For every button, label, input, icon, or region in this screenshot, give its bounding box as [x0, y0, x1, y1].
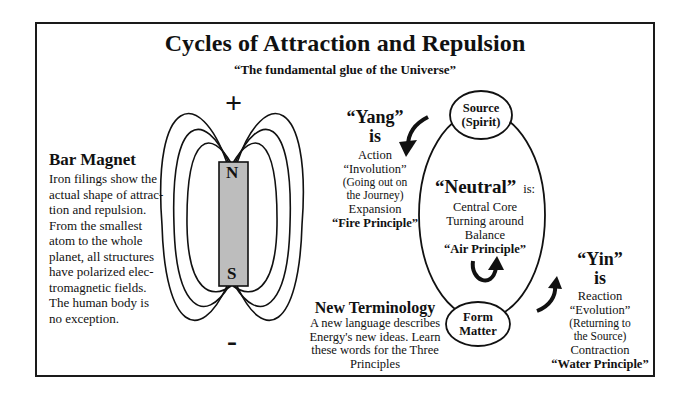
terminology-line: A new language describes — [300, 317, 450, 331]
body-line: actual shape of attrac- — [49, 187, 169, 203]
yang-principle: “Fire Principle” — [320, 216, 430, 230]
body-line: The human body is — [49, 295, 169, 311]
yang-line: the Journey) — [330, 189, 420, 202]
bar-magnet-heading: Bar Magnet — [49, 150, 169, 170]
matter-label: Matter — [447, 324, 509, 338]
body-line: tion and repulsion. — [49, 202, 169, 218]
source-label: Source — [450, 101, 512, 115]
body-line: From the smallest — [49, 218, 169, 234]
neutral-principle: “Air Principle” — [425, 242, 545, 256]
yin-heading: “Yin” — [555, 250, 645, 269]
south-pole-label: S — [227, 264, 236, 284]
body-line: Iron filings show the — [49, 171, 169, 187]
yang-line: “Involution” — [330, 162, 420, 176]
yin-principle: “Water Principle” — [541, 357, 659, 371]
form-label: Form — [447, 310, 509, 324]
north-pole-label: N — [226, 163, 238, 183]
yin-line: the Source) — [555, 330, 645, 343]
yang-line: Action — [330, 148, 420, 162]
terminology-line: these words for the Three — [300, 344, 450, 358]
bar-magnet-body: Iron filings show the actual shape of at… — [49, 171, 169, 326]
minus-sign: - — [227, 326, 237, 356]
terminology-line: Principles — [300, 358, 450, 372]
yin-line: “Evolution” — [555, 303, 645, 317]
yin-is: is — [555, 269, 645, 288]
body-line: tromagnetic fields. — [49, 280, 169, 296]
neutral-line: Turning around — [425, 214, 545, 228]
yang-line: Expansion — [330, 202, 420, 216]
neutral-heading-row: “Neutral” is: — [425, 176, 545, 198]
bar-magnet-description: Bar Magnet Iron filings show the actual … — [49, 150, 169, 326]
yin-line: Reaction — [555, 289, 645, 303]
spirit-label: (Spirit) — [450, 115, 512, 129]
neutral-line: Central Core — [425, 200, 545, 214]
neutral-turning-arrow-icon — [473, 256, 504, 281]
neutral-heading: “Neutral” — [435, 176, 516, 197]
yang-block: “Yang” is Action “Involution” (Going out… — [330, 108, 420, 230]
yang-line: (Going out on — [330, 176, 420, 189]
neutral-line: Balance — [425, 228, 545, 242]
yang-is: is — [330, 127, 420, 146]
body-line: atom to the whole — [49, 233, 169, 249]
new-terminology-block: New Terminology A new language describes… — [300, 299, 450, 371]
new-terminology-heading: New Terminology — [300, 299, 450, 317]
body-line: no exception. — [49, 311, 169, 327]
body-line: have polarized elec- — [49, 264, 169, 280]
terminology-line: Energy's new ideas. Learn — [300, 331, 450, 345]
source-node: Source (Spirit) — [450, 101, 512, 129]
neutral-block: “Neutral” is: Central Core Turning aroun… — [425, 176, 545, 256]
form-node: Form Matter — [447, 310, 509, 338]
body-line: planet, all structures — [49, 249, 169, 265]
yin-block: “Yin” is Reaction “Evolution” (Returning… — [555, 250, 645, 371]
yin-line: (Returning to — [555, 317, 645, 330]
neutral-is: is: — [523, 182, 535, 196]
yin-line: Contraction — [555, 343, 645, 357]
yang-heading: “Yang” — [330, 108, 420, 127]
plus-sign: + — [225, 88, 242, 118]
